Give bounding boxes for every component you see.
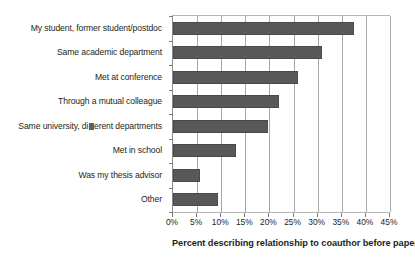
value-axis-tick-label: 45%: [381, 217, 398, 227]
category-label-text: Met in school: [113, 146, 162, 155]
bar-row: [173, 163, 390, 188]
category-label-0: My student, former student/postdoc: [0, 16, 168, 41]
bar: [173, 71, 298, 84]
category-label-text: Same academic department: [57, 48, 162, 57]
category-label-part-pre: Same university, di: [18, 121, 88, 131]
bar: [173, 120, 268, 133]
bar: [173, 46, 322, 59]
category-label-text: Was my thesis advisor: [78, 171, 162, 180]
category-label-2: Met at conference: [0, 65, 168, 90]
bar: [173, 169, 200, 182]
category-axis: My student, former student/postdoc Same …: [0, 16, 168, 212]
bar-chart: My student, former student/postdoc Same …: [0, 0, 415, 264]
value-axis-tick-label: 40%: [356, 217, 373, 227]
bar-row: [173, 114, 390, 139]
bar: [173, 95, 279, 108]
category-label-5: Met in school: [0, 139, 168, 164]
category-label-text: My student, former student/postdoc: [31, 24, 162, 33]
bar-row: [173, 188, 390, 213]
category-label-1: Same academic department: [0, 41, 168, 66]
bars: [173, 16, 390, 212]
plot-area: [172, 16, 390, 212]
bar-row: [173, 16, 390, 41]
value-axis-tick-label: 30%: [308, 217, 325, 227]
value-axis-tick-label: 20%: [260, 217, 277, 227]
value-axis-tick-label: 10%: [212, 217, 229, 227]
category-label-7: Other: [0, 188, 168, 213]
gridline: [390, 16, 391, 212]
bar-row: [173, 139, 390, 164]
category-label-6: Was my thesis advisor: [0, 163, 168, 188]
category-label-3: Through a mutual colleague: [0, 90, 168, 115]
value-axis-labels: 0%5%10%15%20%25%30%35%40%45%: [172, 217, 389, 229]
bar: [173, 144, 236, 157]
category-label-part-post: erent departments: [94, 121, 162, 131]
bar-row: [173, 41, 390, 66]
bar: [173, 193, 218, 206]
category-label-text: Met at conference: [95, 73, 162, 82]
bar-row: [173, 90, 390, 115]
category-label-text: Same university, dierent departments: [18, 122, 162, 131]
category-label-4: Same university, dierent departments: [0, 114, 168, 139]
value-axis-tick-label: 0%: [166, 217, 178, 227]
category-label-text: Other: [141, 195, 162, 204]
category-label-text: Through a mutual colleague: [58, 97, 162, 106]
bar-row: [173, 65, 390, 90]
value-axis-title: Percent describing relationship to coaut…: [172, 238, 412, 248]
bar: [173, 22, 354, 35]
value-axis-tick-label: 25%: [284, 217, 301, 227]
value-axis-tick-label: 5%: [190, 217, 202, 227]
value-axis-tick-label: 35%: [332, 217, 349, 227]
missing-glyph-icon: [89, 123, 94, 130]
value-axis-tick-label: 15%: [236, 217, 253, 227]
